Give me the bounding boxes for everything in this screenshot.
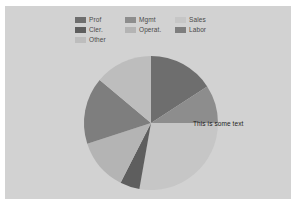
legend-item-prof[interactable]: Prof [75,15,125,24]
legend-label: Operat. [139,25,161,34]
legend-swatch-icon [125,27,136,33]
legend-label: Sales [189,15,206,24]
legend-swatch-icon [125,17,136,23]
legend-item-mgmt[interactable]: Mgmt [125,15,175,24]
pie-annotation-label: This is some text [193,120,243,127]
legend-swatch-icon [75,17,86,23]
legend-item-other[interactable]: Other [75,35,125,44]
screenshot-root: Prof Mgmt Sales Cler. Operat. Labor [0,0,297,204]
legend-swatch-icon [175,17,186,23]
legend-label: Other [89,35,106,44]
legend-label: Mgmt [139,15,156,24]
legend-swatch-icon [75,37,86,43]
legend-swatch-icon [75,27,86,33]
legend-label: Prof [89,15,101,24]
legend-item-operat[interactable]: Operat. [125,25,175,34]
chart-panel: Prof Mgmt Sales Cler. Operat. Labor [5,6,291,199]
legend-swatch-icon [175,27,186,33]
legend-label: Cler. [89,25,103,34]
chart-legend: Prof Mgmt Sales Cler. Operat. Labor [75,15,235,44]
legend-item-cler[interactable]: Cler. [75,25,125,34]
pie-chart: This is some text [79,51,219,191]
legend-item-sales[interactable]: Sales [175,15,225,24]
legend-item-labor[interactable]: Labor [175,25,225,34]
pie-slice-sales[interactable] [139,123,218,190]
legend-label: Labor [189,25,206,34]
